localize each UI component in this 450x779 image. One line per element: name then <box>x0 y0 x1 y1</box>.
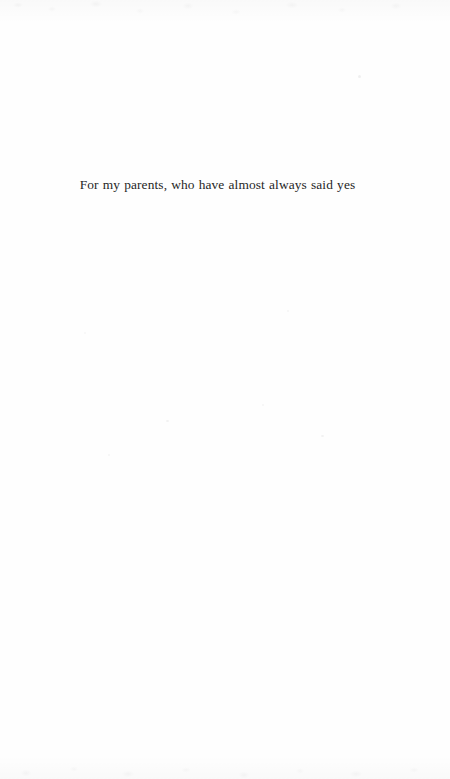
dedication-block: For my parents, who have almost always s… <box>0 176 435 193</box>
scan-noise-top-edge <box>0 0 450 26</box>
scan-speck <box>108 454 110 456</box>
scan-speck <box>84 332 86 334</box>
scan-speck <box>358 75 361 78</box>
dedication-text: For my parents, who have almost always s… <box>0 176 435 193</box>
scan-speck <box>262 404 264 406</box>
scan-speck <box>166 420 169 422</box>
scan-noise-bottom-edge <box>0 753 450 779</box>
dedication-page: For my parents, who have almost always s… <box>0 0 450 779</box>
scan-speck <box>287 310 289 312</box>
scan-speck <box>321 435 324 437</box>
